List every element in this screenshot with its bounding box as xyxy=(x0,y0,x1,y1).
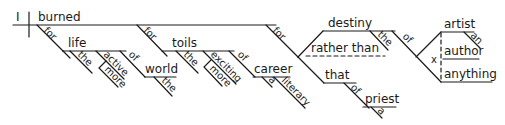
of-word-4: of xyxy=(401,31,416,46)
that-word: that xyxy=(325,68,350,82)
priest-word: priest xyxy=(365,92,400,106)
sentence-diagram: I burned for life the active more of wor… xyxy=(0,0,505,125)
fork-upper-2 xyxy=(416,32,441,57)
subject-word: I xyxy=(16,10,20,24)
of-word-1: of xyxy=(127,49,142,64)
rather-than-word: rather than xyxy=(311,41,379,55)
artist-word: artist xyxy=(444,17,476,31)
for-word-2: for xyxy=(142,25,160,43)
of-word-3: of xyxy=(349,82,364,97)
author-word: author xyxy=(444,44,484,58)
fork-lower-1 xyxy=(298,57,324,83)
compound-marker: x xyxy=(431,54,437,65)
literary-word: literary xyxy=(280,75,313,108)
verb-word: burned xyxy=(38,10,81,24)
of-word-2: of xyxy=(236,49,251,64)
for-word-1: for xyxy=(42,25,60,43)
for-diagonal-1-ext xyxy=(63,51,70,58)
destiny-word: destiny xyxy=(328,16,372,30)
for-word-3: for xyxy=(271,25,289,43)
toils-word: toils xyxy=(172,36,197,50)
world-word: world xyxy=(145,62,178,76)
anything-word: anything xyxy=(444,67,497,81)
